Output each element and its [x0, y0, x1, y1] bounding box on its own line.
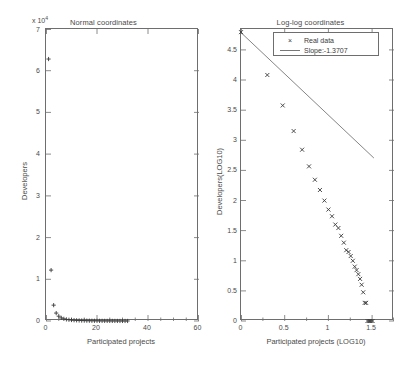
- y-axis-ticks-normal: [46, 30, 199, 322]
- data-point-marker: [239, 30, 243, 34]
- y-tick-label-loglog-3: 1.5: [217, 226, 237, 233]
- y-axis-title-loglog: Developers(LOG10): [215, 148, 224, 215]
- legend-loglog: × Real data Slope:-1.3707: [273, 32, 379, 56]
- y-tick-label-loglog-8: 4: [221, 76, 237, 83]
- y-tick-label-normal-4: 4: [26, 150, 40, 157]
- data-point-marker: [292, 129, 296, 133]
- data-point-marker: [347, 250, 351, 254]
- legend-line-icon: [278, 50, 302, 51]
- x-axis-ticks-loglog: [242, 29, 394, 321]
- data-point-marker: [313, 178, 317, 182]
- plot-canvas-normal: [46, 29, 199, 321]
- data-point-marker: [360, 283, 364, 287]
- data-point-marker: [307, 164, 311, 168]
- data-point-marker: [52, 303, 56, 307]
- chart-panel-normal-coordinates: Normal coordinates x 104: [0, 0, 207, 365]
- x-tick-label-normal-0: 0: [44, 324, 48, 331]
- x-tick-label-normal-3: 60: [194, 324, 202, 331]
- data-points-loglog: [239, 30, 375, 323]
- y-tick-label-loglog-9: 4.5: [217, 45, 237, 52]
- y-tick-label-loglog-6: 3: [221, 136, 237, 143]
- x-tick-label-normal-2: 40: [143, 324, 151, 331]
- data-point-marker: [339, 234, 343, 238]
- data-point-marker: [330, 214, 334, 218]
- y-axis-title-normal: Developers: [20, 162, 29, 200]
- plot-canvas-loglog: [241, 29, 394, 321]
- legend-entry-real-data: × Real data: [278, 35, 374, 45]
- x-tick-label-loglog-2: 1: [325, 324, 329, 331]
- cross-marker-icon: ×: [288, 37, 292, 44]
- legend-label-slope: Slope:-1.3707: [302, 47, 348, 54]
- line-swatch-icon: [280, 50, 300, 51]
- data-point-marker: [54, 311, 58, 315]
- data-point-marker: [356, 272, 360, 276]
- y-tick-label-normal-5: 5: [26, 108, 40, 115]
- data-point-marker: [351, 259, 355, 263]
- x-tick-label-loglog-1: 0.5: [279, 324, 289, 331]
- y-tick-label-normal-1: 1: [26, 275, 40, 282]
- y-tick-label-loglog-1: 0.5: [217, 286, 237, 293]
- data-point-marker: [126, 319, 130, 323]
- chart-title-loglog: Log-log coordinates: [207, 18, 414, 27]
- data-point-marker: [46, 57, 50, 61]
- y-tick-label-loglog-7: 3.5: [217, 106, 237, 113]
- chart-panel-log-log-coordinates: Log-log coordinates: [207, 0, 414, 365]
- data-points-normal: [46, 57, 129, 323]
- x-axis-title-normal: Participated projects: [87, 337, 155, 346]
- data-point-marker: [358, 277, 362, 281]
- data-point-marker: [318, 188, 322, 192]
- y-tick-label-normal-0: 0: [26, 317, 40, 324]
- data-point-marker: [326, 208, 330, 212]
- data-point-marker: [322, 199, 326, 203]
- data-point-marker: [62, 317, 66, 321]
- data-point-marker: [342, 241, 346, 245]
- y-tick-label-normal-7: 7: [26, 25, 40, 32]
- x-axis-title-loglog: Participated projects (LOG10): [266, 337, 365, 346]
- y-tick-label-loglog-2: 1: [221, 256, 237, 263]
- legend-entry-slope: Slope:-1.3707: [278, 45, 374, 55]
- plot-area-loglog: [240, 28, 393, 320]
- y-axis-multiplier-exponent: 4: [45, 15, 48, 21]
- data-point-marker: [361, 290, 365, 294]
- y-tick-label-loglog-0: 0: [221, 317, 237, 324]
- x-tick-label-loglog-0: 0: [239, 324, 243, 331]
- y-tick-label-normal-2: 2: [26, 233, 40, 240]
- legend-marker-icon: ×: [278, 37, 302, 44]
- y-tick-label-normal-6: 6: [26, 66, 40, 73]
- x-tick-label-normal-1: 20: [92, 324, 100, 331]
- x-axis-ticks-normal: [47, 29, 199, 321]
- y-axis-multiplier-base: x 10: [32, 17, 45, 24]
- matlab-figure: Normal coordinates x 104: [0, 0, 414, 365]
- data-point-marker: [336, 226, 340, 230]
- plot-area-normal: [45, 28, 198, 320]
- x-tick-label-loglog-3: 1.5: [366, 324, 376, 331]
- data-point-marker: [300, 148, 304, 152]
- data-point-marker: [281, 103, 285, 107]
- y-axis-multiplier-normal: x 104: [32, 15, 48, 24]
- data-point-marker: [49, 268, 53, 272]
- legend-label-real-data: Real data: [302, 37, 334, 44]
- data-point-marker: [265, 73, 269, 77]
- data-point-marker: [349, 254, 353, 258]
- y-axis-ticks-loglog: [241, 50, 394, 321]
